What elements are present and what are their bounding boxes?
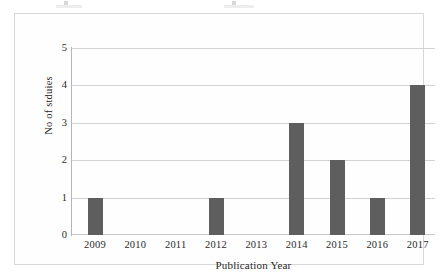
y-tick-label: 2 xyxy=(39,155,67,166)
y-tick-label: 1 xyxy=(39,192,67,203)
gridline xyxy=(72,160,435,161)
x-tick-label: 2015 xyxy=(315,240,359,251)
bar-2014 xyxy=(289,123,304,235)
x-axis-title: Publication Year xyxy=(72,259,435,271)
chart-frame: No of stduies 5 4 3 2 1 0 2009 2010 2011… xyxy=(14,13,424,265)
plot-region xyxy=(72,48,435,235)
x-tick-label: 2014 xyxy=(275,240,319,251)
scan-artifacts xyxy=(0,0,439,14)
y-tick-label: 4 xyxy=(39,80,67,91)
bar-2009 xyxy=(88,198,103,235)
bar-2015 xyxy=(330,160,345,235)
gridline xyxy=(72,48,435,49)
x-tick-label: 2012 xyxy=(194,240,238,251)
gridline xyxy=(72,123,435,124)
x-tick-label: 2011 xyxy=(154,240,198,251)
y-tick-label: 3 xyxy=(39,118,67,129)
bar-2012 xyxy=(209,198,224,235)
x-tick-label: 2017 xyxy=(396,240,439,251)
y-tick-label: 5 xyxy=(39,43,67,54)
gridline xyxy=(72,85,435,86)
y-axis-tick-labels: 5 4 3 2 1 0 xyxy=(33,48,67,235)
y-tick-label: 0 xyxy=(39,230,67,241)
x-tick-label: 2010 xyxy=(113,240,157,251)
bar-2016 xyxy=(370,198,385,235)
x-axis-tick-labels: 2009 2010 2011 2012 2013 2014 2015 2016 … xyxy=(72,240,435,256)
x-tick-label: 2013 xyxy=(234,240,278,251)
bar-2017 xyxy=(410,85,425,235)
x-tick-label: 2016 xyxy=(355,240,399,251)
x-tick-label: 2009 xyxy=(73,240,117,251)
